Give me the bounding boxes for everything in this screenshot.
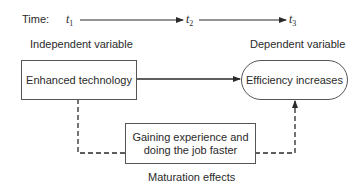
- maturation-dashed-left: [78, 99, 125, 153]
- maturation-box: Gaining experience and doing the job fas…: [125, 123, 256, 164]
- efficiency-increases-label: Efficiency increases: [246, 74, 343, 87]
- enhanced-technology-label: Enhanced technology: [26, 74, 132, 87]
- time-point-t2: t2: [186, 12, 193, 28]
- maturation-effects-caption: Maturation effects: [148, 171, 235, 183]
- dependent-variable-header: Dependent variable: [250, 38, 345, 50]
- maturation-box-line2: doing the job faster: [144, 144, 238, 157]
- independent-variable-header: Independent variable: [30, 38, 133, 50]
- time-label: Time:: [22, 13, 49, 25]
- enhanced-technology-box: Enhanced technology: [21, 60, 137, 100]
- time-point-t3: t3: [289, 12, 296, 28]
- time-point-t1: t1: [66, 12, 73, 28]
- efficiency-increases-box: Efficiency increases: [241, 60, 348, 100]
- maturation-dashed-right: [255, 101, 295, 153]
- maturation-box-line1: Gaining experience and: [132, 131, 248, 144]
